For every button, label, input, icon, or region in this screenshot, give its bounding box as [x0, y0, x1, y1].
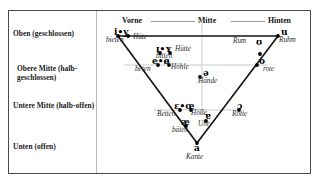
symbol-upsilon: ʊ: [256, 38, 262, 47]
gloss-beten: beten: [135, 66, 151, 74]
gloss-betten: Betten: [157, 111, 175, 119]
gloss-kante: Kante: [186, 154, 203, 162]
gloss-huete: Hüte: [133, 34, 147, 42]
gloss-rotte: Rotte: [232, 111, 247, 119]
gloss-ruhm: Ruhm: [279, 37, 296, 45]
symbol-e-oslash: e•ø: [152, 57, 169, 66]
gloss-hoehle: Höhle: [171, 64, 189, 72]
row-label-obere-mitte: Obere Mitte (halb-geschlossen): [17, 64, 97, 82]
symbol-a: a: [194, 144, 200, 153]
row-label-unten: Unten (offen): [13, 142, 93, 151]
gloss-rote: rote: [263, 66, 274, 74]
gloss-uhr: Uhr: [198, 121, 210, 129]
gloss-baeten: bäten: [172, 127, 188, 135]
gloss-rum: Rum: [233, 38, 246, 46]
gloss-haende: Hände: [198, 78, 217, 86]
gloss-bieten: bieten: [106, 37, 124, 45]
row-label-untere-mitte: Untere Mitte (halb-offen): [13, 101, 95, 110]
gloss-huette: Hütte: [175, 46, 191, 54]
vowel-chart-screenshot: Vorne Mitte Hinten Oben (geschlossen) Ob…: [0, 0, 319, 182]
row-label-oben: Oben (geschlossen): [13, 29, 99, 38]
